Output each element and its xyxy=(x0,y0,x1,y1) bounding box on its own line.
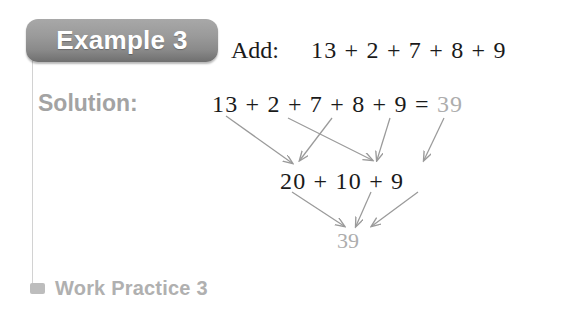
work-practice-footer: Work Practice 3 xyxy=(30,277,208,300)
solution-row-top: 13 + 2 + 7 + 8 + 9 = 39 xyxy=(212,91,463,118)
arrow-8-to-10 xyxy=(377,118,390,160)
arrow-9-to-9 xyxy=(424,118,444,160)
arrow-9-to-39 xyxy=(372,192,418,226)
square-bullet-icon xyxy=(30,283,45,294)
prompt-label: Add: xyxy=(231,37,279,64)
example-badge-label: Example 3 xyxy=(56,25,187,56)
arrow-7-to-20 xyxy=(300,118,332,160)
solution-row-middle: 20 + 10 + 9 xyxy=(280,168,404,195)
work-practice-label: Work Practice 3 xyxy=(55,277,208,300)
example-badge: Example 3 xyxy=(26,19,218,62)
arrow-10-to-39 xyxy=(356,192,371,226)
arrow-13-to-20 xyxy=(226,116,292,163)
arrow-20-to-39 xyxy=(292,192,344,226)
solution-row-top-expression: 13 + 2 + 7 + 8 + 9 = xyxy=(212,91,437,117)
example-figure: Example 3 Add: 13 + 2 + 7 + 8 + 9 Soluti… xyxy=(0,0,569,310)
prompt-expression: 13 + 2 + 7 + 8 + 9 xyxy=(311,37,507,64)
arrow-2-to-10 xyxy=(288,118,372,160)
solution-row-top-result: 39 xyxy=(437,91,463,117)
solution-row-bottom: 39 xyxy=(337,228,359,254)
solution-label: Solution: xyxy=(38,90,138,117)
left-vertical-rule xyxy=(32,40,33,290)
